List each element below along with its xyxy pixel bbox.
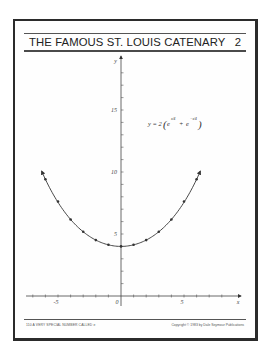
x-tick-label: x — [236, 299, 240, 305]
data-point — [195, 178, 198, 181]
data-point — [158, 230, 161, 233]
y-tick-label: 10 — [111, 169, 117, 175]
equation-label: y = 2(ex/4+e−x/4) — [147, 117, 202, 131]
data-point — [57, 200, 60, 203]
data-point — [69, 218, 72, 221]
x-tick-label: -5 — [54, 299, 59, 305]
axes — [26, 56, 241, 306]
term2-exp: −x/4 — [190, 117, 197, 121]
data-point — [183, 200, 186, 203]
data-point — [95, 239, 98, 242]
term1-exp: x/4 — [170, 117, 176, 121]
data-point — [120, 245, 123, 248]
paren-close: ) — [197, 118, 202, 131]
y-tick-label: y — [113, 58, 117, 64]
data-point — [107, 243, 110, 246]
data-point — [132, 243, 135, 246]
y-tick-label: 15 — [111, 107, 117, 113]
axis-labels: -505x51015y — [54, 58, 240, 305]
plus-sign: + — [179, 120, 183, 127]
catenary-plot: -505x51015y y = 2(ex/4+e−x/4) — [0, 0, 268, 362]
x-tick-label: 0 — [116, 299, 119, 305]
data-point — [44, 178, 47, 181]
y-tick-label: 5 — [114, 231, 117, 237]
term2-base: e — [186, 120, 189, 127]
equation-lhs: y = 2 — [147, 120, 163, 127]
data-point — [82, 230, 85, 233]
data-point — [170, 218, 173, 221]
x-tick-label: 5 — [181, 299, 184, 305]
data-point — [145, 239, 148, 242]
term1-base: e — [167, 120, 170, 127]
